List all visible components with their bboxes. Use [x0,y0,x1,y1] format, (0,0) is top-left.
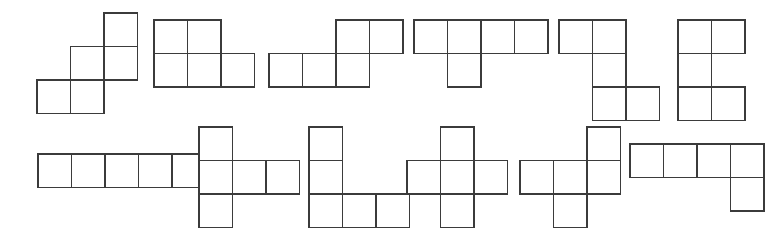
pentomino-cell [71,47,105,81]
pentomino-outline [676,18,747,123]
shape-8-t-pentomino [197,125,302,228]
shape-1-w-pentomino [35,11,140,116]
pentomino-cell [731,144,765,178]
pentomino-cell [441,194,475,228]
pentomino-cell [593,54,627,88]
pentomino-cell [678,20,712,54]
pentomino-cell [593,87,627,121]
pentomino-cell [104,13,138,47]
shape-9-v-pentomino [307,125,412,228]
pentomino-cell [474,161,508,195]
pentomino-cell [71,80,105,114]
pentomino-outline [152,18,257,89]
shape-6-u-pentomino [676,18,747,123]
pentomino-cell [199,127,233,161]
pentomino-cell [712,87,746,121]
pentomino-cell [188,20,222,54]
pentomino-cell [309,127,343,161]
pentomino-cell [154,20,188,54]
shape-7-i-pentomino [36,152,208,190]
pentomino-cell [38,154,72,188]
pentomino-cell [343,194,377,228]
pentomino-cell [309,194,343,228]
pentomino-cell [559,20,593,54]
shape-11-f-pentomino [518,125,623,228]
pentomino-cell [587,161,621,195]
pentomino-cell [481,20,515,54]
pentomino-cell [139,154,173,188]
pentomino-cell [199,161,233,195]
shape-10-x-pentomino [405,125,510,228]
pentomino-cell [520,161,554,195]
pentomino-outline [412,18,550,89]
pentomino-cell [678,87,712,121]
pentomino-cell [269,54,303,88]
pentomino-outline [267,18,405,89]
pentomino-cell [515,20,549,54]
pentomino-cell [414,20,448,54]
pentomino-cell [221,54,255,88]
pentomino-cell [370,20,404,54]
pentomino-cell [630,144,664,178]
pentomino-cell [303,54,337,88]
pentomino-cell [554,194,588,228]
shape-3-n-pentomino [267,18,405,89]
pentomino-cell [731,178,765,212]
pentomino-cell [105,154,139,188]
pentomino-cell [712,20,746,54]
pentomino-cell [448,20,482,54]
pentomino-cell [626,87,660,121]
pentomino-cell [188,54,222,88]
pentomino-cell [697,144,731,178]
pentomino-cell [407,161,441,195]
shape-4-y-pentomino [412,18,550,89]
pentomino-outline [628,142,766,213]
pentomino-cell [664,144,698,178]
pentomino-cell [266,161,300,195]
pentomino-outline [35,11,140,116]
pentomino-cell [441,127,475,161]
pentomino-cell [72,154,106,188]
pentomino-outline [405,125,510,228]
pentomino-cell [37,80,71,114]
pentomino-cell [309,161,343,195]
pentomino-outline [197,125,302,228]
pentomino-cell [336,20,370,54]
shape-12-l-pentomino [628,142,766,213]
pentomino-cell [154,54,188,88]
pentomino-cell [104,47,138,81]
pentomino-figure-canvas [0,0,778,228]
pentomino-cell [199,194,233,228]
shape-5-z-pentomino [557,18,662,123]
shape-2-p-pentomino [152,18,257,89]
pentomino-outline [557,18,662,123]
pentomino-cell [587,127,621,161]
pentomino-cell [554,161,588,195]
pentomino-cell [336,54,370,88]
pentomino-outline [307,125,412,228]
pentomino-cell [448,54,482,88]
pentomino-cell [593,20,627,54]
pentomino-cell [441,161,475,195]
pentomino-outline [518,125,623,228]
pentomino-outline [36,152,208,190]
pentomino-cell [678,54,712,88]
pentomino-cell [233,161,267,195]
